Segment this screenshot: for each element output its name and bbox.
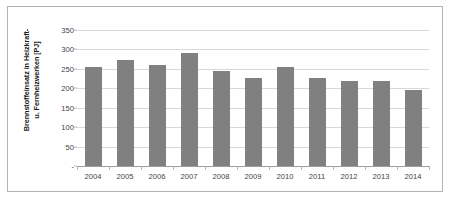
bar-2006[interactable] [149, 65, 166, 166]
bar-series [77, 30, 429, 167]
y-tick-label-250: 250 [46, 64, 74, 73]
bar-slot-2013 [365, 30, 397, 167]
x-tick-label-2004: 2004 [77, 172, 109, 186]
chart-frame: Brennstoffeinsatz in Heizkraft- u. Fernh… [7, 6, 443, 192]
x-tickmark-8 [333, 166, 334, 170]
x-tickmark-1 [109, 166, 110, 170]
bar-2008[interactable] [213, 71, 230, 166]
x-tickmark-4 [205, 166, 206, 170]
x-tick-label-2006: 2006 [141, 172, 173, 186]
bar-slot-2012 [333, 30, 365, 167]
bar-2010[interactable] [277, 67, 294, 166]
y-tick-label-200: 200 [46, 84, 74, 93]
x-tick-label-2008: 2008 [205, 172, 237, 186]
x-tickmark-7 [301, 166, 302, 170]
bar-slot-2005 [109, 30, 141, 167]
y-tick-label-100: 100 [46, 123, 74, 132]
bar-2011[interactable] [309, 78, 326, 166]
bar-2007[interactable] [181, 53, 198, 166]
x-tickmark-3 [173, 166, 174, 170]
x-tickmark-2 [141, 166, 142, 170]
x-tick-label-2012: 2012 [333, 172, 365, 186]
bar-slot-2006 [141, 30, 173, 167]
bar-2005[interactable] [117, 60, 134, 166]
x-tickmark-9 [365, 166, 366, 170]
x-axis-tick-label-group: 2004200520062007200820092010201120122013… [77, 172, 429, 186]
y-tick-label-150: 150 [46, 103, 74, 112]
y-tick-label-350: 350 [46, 25, 74, 34]
bar-slot-2011 [301, 30, 333, 167]
x-tickmark-6 [269, 166, 270, 170]
bar-slot-2008 [205, 30, 237, 167]
bar-2009[interactable] [245, 78, 262, 166]
bar-slot-2010 [269, 30, 301, 167]
bar-slot-2007 [173, 30, 205, 167]
x-tickmark-0 [77, 166, 78, 170]
plot-area [77, 30, 429, 167]
x-tick-label-2005: 2005 [109, 172, 141, 186]
y-tick-label-300: 300 [46, 45, 74, 54]
x-tickmark-11 [429, 166, 430, 170]
x-tick-label-2010: 2010 [269, 172, 301, 186]
x-tick-label-2014: 2014 [397, 172, 429, 186]
x-tick-label-2011: 2011 [301, 172, 333, 186]
bar-slot-2004 [77, 30, 109, 167]
bar-2013[interactable] [373, 81, 390, 166]
x-tickmark-5 [237, 166, 238, 170]
y-axis-title-line-1: Brennstoffeinsatz in Heizkraft- [22, 5, 32, 155]
bar-2012[interactable] [341, 81, 358, 166]
y-tick-label-0: - [46, 162, 74, 171]
x-tick-label-2009: 2009 [237, 172, 269, 186]
bar-slot-2014 [397, 30, 429, 167]
y-tick-label-50: 50 [46, 142, 74, 151]
bar-2014[interactable] [405, 90, 422, 166]
y-axis-tick-label-group: -50100150200250300350 [46, 7, 74, 187]
x-tick-label-2013: 2013 [365, 172, 397, 186]
x-axis-tickmark-group [77, 166, 429, 170]
x-tick-label-2007: 2007 [173, 172, 205, 186]
bar-slot-2009 [237, 30, 269, 167]
bar-2004[interactable] [85, 67, 102, 166]
y-axis-title-line-2: u. Fernheizwerken [PJ] [32, 5, 42, 155]
x-tickmark-10 [397, 166, 398, 170]
